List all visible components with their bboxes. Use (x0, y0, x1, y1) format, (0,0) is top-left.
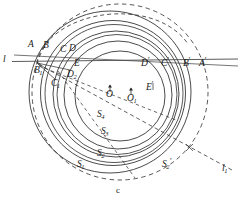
circle-s4 (64, 41, 172, 149)
label-point-D: D (69, 44, 76, 54)
crossing-mark-l1 (186, 144, 193, 151)
label-line-l: l (3, 55, 6, 65)
label-point-B-prime: B' (183, 59, 191, 69)
figure-canvas (0, 0, 238, 201)
label-point-B1: B1 (34, 66, 43, 76)
label-arc-S3: S3 (101, 127, 109, 137)
label-point-C-prime: C' (161, 59, 169, 69)
label-point-B: B (43, 41, 49, 51)
circle-s5-innermost (75, 51, 165, 141)
label-point-E-prime: E' (146, 83, 154, 93)
label-point-D2: D2 (67, 70, 77, 80)
label-arc-S1: S1 (77, 160, 85, 170)
label-point-A: A (28, 40, 34, 50)
dashed-construction-arc (37, 14, 188, 63)
geometry-figure: l l1 A B C D E B1 C1 D2 D' C' B' A' O (0, 0, 238, 201)
label-arc-S2: S2 (97, 149, 105, 159)
label-line-l1: l1 (222, 164, 228, 174)
label-point-A-prime: A' (199, 59, 207, 69)
label-arc-S2-prime: S2' (162, 160, 172, 170)
dashed-circle-s2-prime (32, 4, 208, 180)
label-point-D-prime: D' (141, 59, 150, 69)
figure-caption: c (116, 186, 120, 195)
label-point-E: E (74, 59, 80, 69)
label-center-O: O (106, 90, 113, 100)
circle-s2 (41, 21, 186, 166)
label-point-C1: C1 (51, 79, 61, 89)
label-center-O1: O1 (127, 94, 137, 104)
label-point-C: C (60, 45, 66, 55)
label-arc-S4: S4 (97, 110, 105, 120)
